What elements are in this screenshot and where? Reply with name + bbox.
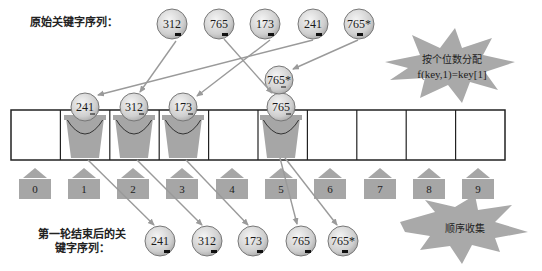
bucket-index-0: 0 bbox=[19, 168, 51, 199]
distribution-arrows bbox=[98, 39, 358, 96]
callout-collect-text: 顺序收集 bbox=[445, 222, 485, 234]
arrow-765star-to-bucket-5 bbox=[293, 40, 358, 69]
svg-text:173: 173 bbox=[244, 234, 262, 248]
original-key-312: 312 bbox=[157, 9, 187, 39]
collected-key-765: 765 bbox=[286, 226, 316, 256]
bucket-index-1: 1 bbox=[68, 168, 100, 199]
svg-text:0: 0 bbox=[32, 183, 38, 195]
original-key-765: 765 bbox=[204, 9, 234, 39]
svg-text:765*: 765* bbox=[347, 17, 371, 31]
bucket-index-labels: 0 1 2 3 4 5 6 7 8 9 bbox=[19, 168, 494, 199]
bucket-index-5: 5 bbox=[265, 168, 297, 199]
after-round-label-line2: 键字序列： bbox=[34, 242, 130, 256]
svg-text:765: 765 bbox=[210, 17, 228, 31]
svg-text:241: 241 bbox=[76, 100, 94, 114]
svg-text:4: 4 bbox=[229, 183, 235, 195]
original-keys: 312 765 173 241 765* bbox=[157, 9, 374, 39]
svg-text:312: 312 bbox=[163, 17, 181, 31]
svg-text:2: 2 bbox=[130, 183, 136, 195]
bucket-index-2: 2 bbox=[117, 168, 149, 199]
svg-text:765*: 765* bbox=[331, 234, 355, 248]
original-sequence-label: 原始关键字序列： bbox=[30, 16, 118, 30]
svg-text:3: 3 bbox=[179, 183, 185, 195]
collected-key-173: 173 bbox=[238, 226, 268, 256]
bucket-ball-173: 173 bbox=[169, 93, 197, 121]
svg-text:5: 5 bbox=[278, 183, 284, 195]
svg-text:7: 7 bbox=[377, 183, 383, 195]
svg-text:9: 9 bbox=[475, 183, 481, 195]
bucket-ball-241: 241 bbox=[71, 93, 99, 121]
callout-distribute-line1: 按个位数分配 bbox=[422, 53, 482, 65]
after-round-label: 第一轮结束后的关 键字序列： bbox=[34, 228, 130, 256]
collected-keys: 241 312 173 765 765* bbox=[145, 226, 358, 256]
bucket-index-8: 8 bbox=[413, 168, 445, 199]
svg-text:765*: 765* bbox=[267, 73, 291, 87]
original-key-765-star: 765* bbox=[344, 9, 374, 39]
bucket-index-4: 4 bbox=[216, 168, 248, 199]
after-round-label-line1: 第一轮结束后的关 bbox=[34, 228, 130, 242]
bucket-ball-312: 312 bbox=[120, 93, 148, 121]
arrow-173-to-bucket-3 bbox=[197, 40, 270, 96]
callout-starburst-distribute: 按个位数分配 f(key,1)=key[1] bbox=[385, 28, 515, 103]
svg-text:765: 765 bbox=[292, 234, 310, 248]
bucket-index-9: 9 bbox=[462, 168, 494, 199]
svg-text:1: 1 bbox=[81, 183, 87, 195]
callout-starburst-collect: 顺序收集 bbox=[400, 195, 528, 264]
original-key-173: 173 bbox=[250, 9, 280, 39]
svg-text:241: 241 bbox=[304, 17, 322, 31]
collected-key-312: 312 bbox=[192, 226, 222, 256]
svg-text:765: 765 bbox=[272, 100, 290, 114]
original-key-241: 241 bbox=[298, 9, 328, 39]
arrow-765-to-bucket-5 bbox=[224, 39, 272, 93]
svg-text:173: 173 bbox=[256, 17, 274, 31]
svg-text:6: 6 bbox=[327, 183, 333, 195]
svg-text:312: 312 bbox=[198, 234, 216, 248]
collected-key-765-star: 765* bbox=[328, 226, 358, 256]
bucket-index-6: 6 bbox=[314, 168, 346, 199]
bucket-ball-765: 765 bbox=[267, 93, 295, 121]
bucket-index-7: 7 bbox=[364, 168, 396, 199]
arrow-312-to-bucket-2 bbox=[140, 41, 176, 92]
svg-text:312: 312 bbox=[125, 100, 143, 114]
svg-text:173: 173 bbox=[174, 100, 192, 114]
callout-distribute-line2: f(key,1)=key[1] bbox=[417, 68, 486, 81]
svg-text:8: 8 bbox=[426, 183, 432, 195]
svg-text:241: 241 bbox=[151, 234, 169, 248]
collected-key-241: 241 bbox=[145, 226, 175, 256]
